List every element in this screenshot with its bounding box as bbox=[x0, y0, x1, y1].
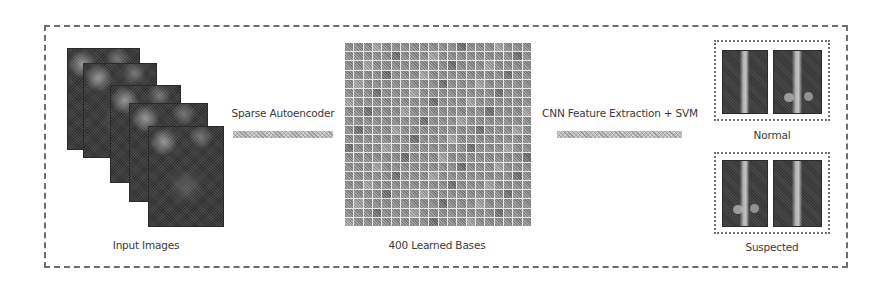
learned-base-tile bbox=[513, 209, 521, 217]
learned-base-tile bbox=[429, 163, 437, 171]
learned-base-tile bbox=[504, 43, 512, 51]
learned-base-tile bbox=[392, 199, 400, 207]
learned-base-tile bbox=[495, 153, 503, 161]
learned-base-tile bbox=[439, 153, 447, 161]
learned-base-tile bbox=[364, 117, 372, 125]
learned-base-tile bbox=[513, 43, 521, 51]
learned-base-tile bbox=[467, 61, 475, 69]
learned-base-tile bbox=[448, 126, 456, 134]
learned-base-tile bbox=[448, 71, 456, 79]
learned-base-tile bbox=[429, 71, 437, 79]
learned-bases-label: 400 Learned Bases bbox=[389, 239, 486, 251]
learned-base-tile bbox=[457, 163, 465, 171]
learned-bases-grid bbox=[345, 43, 531, 226]
learned-base-tile bbox=[364, 89, 372, 97]
learned-base-tile bbox=[504, 163, 512, 171]
learned-base-tile bbox=[495, 181, 503, 189]
learned-base-tile bbox=[382, 61, 390, 69]
learned-base-tile bbox=[485, 43, 493, 51]
learned-base-tile bbox=[476, 190, 484, 198]
learned-base-tile bbox=[364, 144, 372, 152]
learned-base-tile bbox=[485, 52, 493, 60]
learned-base-tile bbox=[345, 144, 353, 152]
learned-base-tile bbox=[485, 89, 493, 97]
learned-base-tile bbox=[410, 190, 418, 198]
learned-base-tile bbox=[495, 61, 503, 69]
learned-base-tile bbox=[354, 61, 362, 69]
learned-base-tile bbox=[373, 218, 381, 226]
learned-base-tile bbox=[401, 98, 409, 106]
learned-base-tile bbox=[429, 199, 437, 207]
learned-base-tile bbox=[364, 126, 372, 134]
learned-base-tile bbox=[504, 218, 512, 226]
learned-base-tile bbox=[523, 199, 531, 207]
learned-base-tile bbox=[495, 107, 503, 115]
learned-base-tile bbox=[467, 43, 475, 51]
learned-base-tile bbox=[382, 117, 390, 125]
learned-base-tile bbox=[439, 80, 447, 88]
learned-base-tile bbox=[401, 209, 409, 217]
learned-base-tile bbox=[364, 61, 372, 69]
learned-base-tile bbox=[410, 144, 418, 152]
learned-base-tile bbox=[523, 71, 531, 79]
learned-base-tile bbox=[429, 89, 437, 97]
learned-base-tile bbox=[513, 153, 521, 161]
learned-base-tile bbox=[392, 43, 400, 51]
learned-base-tile bbox=[373, 172, 381, 180]
learned-base-tile bbox=[364, 107, 372, 115]
learned-base-tile bbox=[410, 52, 418, 60]
learned-base-tile bbox=[364, 43, 372, 51]
learned-base-tile bbox=[420, 80, 428, 88]
learned-base-tile bbox=[439, 126, 447, 134]
learned-base-tile bbox=[457, 218, 465, 226]
normal-image-1 bbox=[722, 50, 768, 114]
learned-base-tile bbox=[401, 43, 409, 51]
learned-base-tile bbox=[504, 209, 512, 217]
learned-base-tile bbox=[457, 61, 465, 69]
learned-base-tile bbox=[392, 135, 400, 143]
learned-base-tile bbox=[467, 52, 475, 60]
learned-base-tile bbox=[364, 135, 372, 143]
learned-base-tile bbox=[504, 172, 512, 180]
learned-base-tile bbox=[345, 172, 353, 180]
learned-base-tile bbox=[457, 126, 465, 134]
learned-base-tile bbox=[410, 218, 418, 226]
learned-base-tile bbox=[401, 126, 409, 134]
learned-base-tile bbox=[476, 135, 484, 143]
learned-base-tile bbox=[504, 126, 512, 134]
learned-base-tile bbox=[495, 199, 503, 207]
learned-base-tile bbox=[485, 126, 493, 134]
learned-base-tile bbox=[410, 71, 418, 79]
learned-base-tile bbox=[439, 144, 447, 152]
learned-base-tile bbox=[457, 144, 465, 152]
learned-base-tile bbox=[513, 52, 521, 60]
learned-base-tile bbox=[457, 135, 465, 143]
learned-base-tile bbox=[354, 181, 362, 189]
learned-base-tile bbox=[495, 80, 503, 88]
learned-base-tile bbox=[401, 172, 409, 180]
learned-base-tile bbox=[476, 126, 484, 134]
learned-base-tile bbox=[467, 218, 475, 226]
learned-base-tile bbox=[467, 135, 475, 143]
learned-base-tile bbox=[345, 89, 353, 97]
learned-base-tile bbox=[513, 199, 521, 207]
learned-base-tile bbox=[345, 61, 353, 69]
learned-base-tile bbox=[457, 172, 465, 180]
learned-base-tile bbox=[373, 153, 381, 161]
learned-base-tile bbox=[439, 199, 447, 207]
learned-base-tile bbox=[439, 71, 447, 79]
learned-base-tile bbox=[495, 190, 503, 198]
learned-base-tile bbox=[476, 61, 484, 69]
learned-base-tile bbox=[420, 144, 428, 152]
learned-base-tile bbox=[420, 43, 428, 51]
learned-base-tile bbox=[382, 52, 390, 60]
learned-base-tile bbox=[410, 117, 418, 125]
learned-base-tile bbox=[364, 172, 372, 180]
learned-base-tile bbox=[523, 190, 531, 198]
sparse-autoencoder-label: Sparse Autoencoder bbox=[232, 107, 335, 119]
learned-base-tile bbox=[513, 163, 521, 171]
learned-base-tile bbox=[345, 153, 353, 161]
learned-base-tile bbox=[476, 218, 484, 226]
learned-base-tile bbox=[420, 89, 428, 97]
learned-base-tile bbox=[504, 80, 512, 88]
